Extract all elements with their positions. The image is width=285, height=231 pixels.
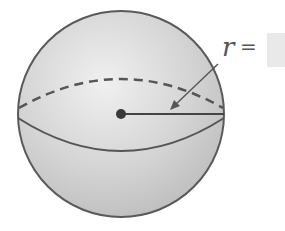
center-point <box>116 109 126 119</box>
radius-label: r <box>222 34 234 60</box>
radius-answer-box[interactable] <box>267 33 285 67</box>
equals-sign: = <box>240 36 257 56</box>
